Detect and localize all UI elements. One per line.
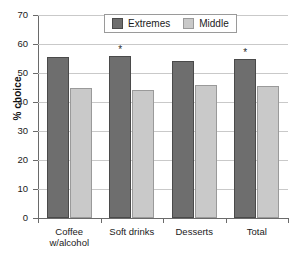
gridline (38, 44, 288, 45)
legend-label-middle: Middle (199, 18, 228, 29)
y-tick-label: 20 (0, 155, 28, 165)
significance-marker: * (240, 48, 250, 58)
y-tick-mark (33, 131, 38, 132)
bar-chart: % choice 010203040506070 Coffeew/alcohol… (0, 0, 300, 261)
bar-extremes (109, 56, 131, 218)
y-tick-label: 40 (0, 97, 28, 107)
y-tick-label: 0 (0, 213, 28, 223)
y-tick-label: 30 (0, 126, 28, 136)
legend-item-middle: Middle (183, 18, 228, 29)
x-tick-mark (163, 218, 164, 223)
bar-middle (70, 88, 92, 218)
y-tick-mark (33, 15, 38, 16)
significance-marker: * (115, 45, 125, 55)
y-tick-label: 70 (0, 10, 28, 20)
x-tick-mark (101, 218, 102, 223)
x-tick-label-line: Total (213, 226, 300, 237)
x-tick-label: Total (213, 226, 300, 237)
x-tick-mark (38, 218, 39, 223)
chart-legend: Extremes Middle (104, 14, 237, 33)
y-tick-label: 60 (0, 39, 28, 49)
bar-middle (257, 86, 279, 218)
bar-middle (132, 90, 154, 218)
y-tick-mark (33, 44, 38, 45)
bar-extremes (47, 57, 69, 218)
extremes-swatch-icon (112, 18, 123, 29)
bar-extremes (234, 59, 256, 218)
x-tick-mark (226, 218, 227, 223)
y-tick-mark (33, 160, 38, 161)
x-tick-mark (288, 218, 289, 223)
legend-item-extremes: Extremes (112, 18, 170, 29)
y-tick-mark (33, 189, 38, 190)
bar-middle (195, 85, 217, 218)
x-tick-label-line: w/alcohol (25, 237, 113, 248)
y-tick-mark (33, 73, 38, 74)
y-tick-label: 10 (0, 184, 28, 194)
y-tick-label: 50 (0, 68, 28, 78)
bar-extremes (172, 61, 194, 218)
middle-swatch-icon (183, 18, 194, 29)
legend-label-extremes: Extremes (128, 18, 170, 29)
y-tick-mark (33, 102, 38, 103)
